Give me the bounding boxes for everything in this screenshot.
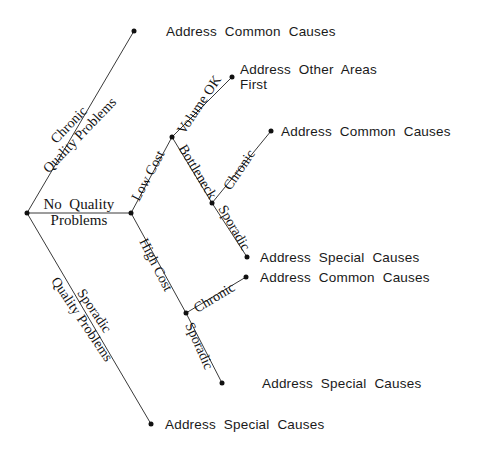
leaf-label-btl-sporadic: Address Special Causes [260, 250, 419, 265]
leaf-label-chronic-top: Address Common Causes [166, 24, 336, 39]
node-cost-split [129, 211, 134, 216]
decision-tree-diagram: Chronic Quality ProblemsSporadic Quality… [0, 0, 482, 466]
leaf-label-btl-chronic: Address Common Causes [281, 124, 451, 139]
node-leaf-btl-chronic [269, 129, 274, 134]
node-bottleneck-split [210, 201, 215, 206]
node-leaf-hc-chronic [244, 275, 249, 280]
node-leaf-volume-ok [230, 75, 235, 80]
node-high-cost-split [184, 311, 189, 316]
node-leaf-btl-sporadic [245, 255, 250, 260]
leaf-label-volume-ok: Address Other Areas First [240, 62, 377, 92]
node-low-cost-split [170, 135, 175, 140]
root-node-label: No Quality Problems [44, 196, 115, 228]
leaf-label-hc-chronic: Address Common Causes [260, 270, 430, 285]
leaf-label-hc-sporadic: Address Special Causes [262, 376, 421, 391]
node-leaf-sporadic-bot [149, 422, 154, 427]
node-leaf-hc-sporadic [220, 381, 225, 386]
leaf-label-sporadic-bot: Address Special Causes [165, 417, 324, 432]
node-leaf-chronic-top [132, 29, 137, 34]
node-root [25, 211, 30, 216]
